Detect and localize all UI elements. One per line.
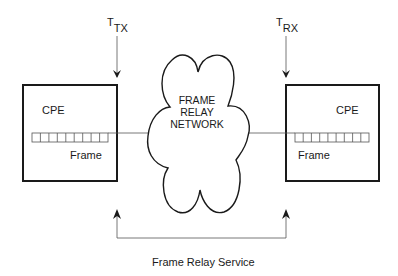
- network-label-line1: FRAME: [157, 94, 237, 106]
- rx-label: TRX: [276, 16, 298, 28]
- rx-label-main: T: [276, 16, 283, 28]
- left-frame-cells: [32, 133, 108, 142]
- network-cloud: [148, 55, 250, 213]
- service-bracket: [117, 212, 286, 238]
- left-frame-label: Frame: [70, 149, 102, 161]
- tx-label-main: T: [107, 16, 114, 28]
- service-label: Frame Relay Service: [152, 256, 255, 268]
- tx-label: TTX: [107, 16, 128, 28]
- left-cpe-label: CPE: [42, 104, 65, 116]
- right-frame-cells: [295, 133, 369, 142]
- frame-relay-diagram: [0, 0, 398, 276]
- right-frame-label: Frame: [298, 149, 330, 161]
- rx-label-sub: RX: [283, 22, 298, 34]
- right-cpe-label: CPE: [336, 104, 359, 116]
- network-label-line3: NETWORK: [157, 118, 237, 130]
- network-label-line2: RELAY: [157, 106, 237, 118]
- network-label: FRAME RELAY NETWORK: [157, 94, 237, 130]
- tx-label-sub: TX: [114, 22, 128, 34]
